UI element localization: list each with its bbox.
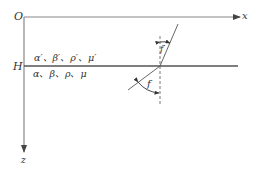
- upper-angle-arc: [160, 42, 170, 43]
- upper-medium-params: α′、β′、ρ′、μ′: [34, 53, 96, 63]
- z-axis-label: z: [21, 156, 26, 165]
- lower-ray: [128, 66, 160, 90]
- refraction-diagram: [0, 0, 256, 170]
- lower-angle-label: f: [147, 79, 151, 89]
- origin-label: O: [14, 11, 23, 22]
- lower-medium-params: α、β、ρ、μ: [33, 69, 87, 79]
- upper-angle-label: f′: [160, 45, 165, 54]
- x-axis-label: x: [242, 11, 248, 21]
- depth-label: H: [13, 61, 23, 72]
